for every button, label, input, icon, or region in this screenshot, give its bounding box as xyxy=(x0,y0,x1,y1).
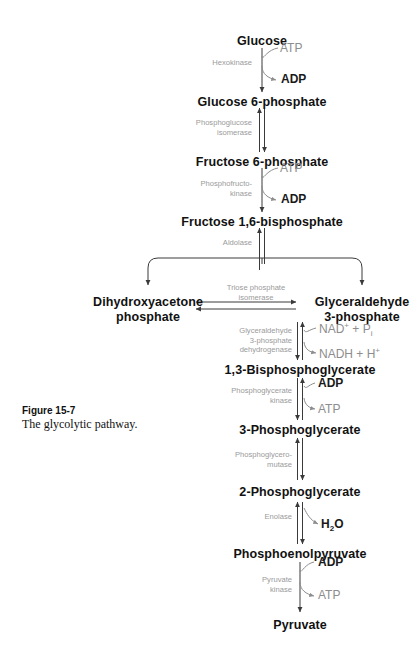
enzyme-phosphoglucose-isomerase-line2: isomerase xyxy=(217,128,252,137)
enzyme-pyruvate-kinase-line1: Pyruvate xyxy=(262,575,292,584)
cofactor-pi-subscript: i xyxy=(371,329,373,338)
figure-caption: Figure 15-7 The glycolytic pathway. xyxy=(22,404,138,432)
enzyme-triose-phosphate-isomerase-line1: Triose phosphate xyxy=(227,283,285,292)
cofactor-h2o-h: H xyxy=(321,517,330,531)
enzyme-phosphoglyceromutase-line2: mutase xyxy=(267,460,292,469)
enzyme-hexokinase: Hexokinase xyxy=(212,58,252,67)
metabolite-fructose-6-phosphate: Fructose 6-phosphate xyxy=(196,155,329,169)
cofactor-water-enolase: H2O xyxy=(321,517,343,533)
cofactor-atp-hexokinase: ATP xyxy=(280,41,302,55)
glycolysis-diagram: Glucose Glucose 6-phosphate Fructose 6-p… xyxy=(0,0,419,671)
enzyme-phosphoglycerate-kinase-line2: kinase xyxy=(270,396,292,405)
figure-number: Figure 15-7 xyxy=(22,404,138,417)
metabolite-2-phosphoglycerate: 2-Phosphoglycerate xyxy=(239,485,360,499)
cofactor-nad-label: NAD xyxy=(319,322,344,336)
metabolite-1-3-bisphosphoglycerate: 1,3-Bisphosphoglycerate xyxy=(225,363,376,377)
cofactor-atp-pgk: ATP xyxy=(318,402,340,416)
enzyme-aldolase: Aldolase xyxy=(223,238,252,247)
cofactor-adp-pgk: ADP xyxy=(318,376,343,390)
enzyme-phosphoglyceromutase-line1: Phosphoglycero- xyxy=(235,450,292,459)
enzyme-phosphoglycerate-kinase-line1: Phosphoglycerate xyxy=(231,386,292,395)
cofactor-adp-pfk: ADP xyxy=(281,192,306,206)
enzyme-gapdh-line1: Glyceraldehyde xyxy=(239,326,292,335)
figure-caption-text: The glycolytic pathway. xyxy=(22,417,138,432)
metabolite-phosphoenolpyruvate: Phosphoenolpyruvate xyxy=(233,547,366,561)
cofactor-h2o-o: O xyxy=(334,517,343,531)
metabolite-dhap-line2: phosphate xyxy=(116,310,180,324)
metabolite-pyruvate: Pyruvate xyxy=(273,618,327,632)
cofactor-plus-sign: + xyxy=(349,322,363,336)
enzyme-gapdh-line2: 3-phosphate xyxy=(250,336,292,345)
metabolite-dhap-line1: Dihydroxyacetone xyxy=(93,295,203,309)
cofactor-adp-hexokinase: ADP xyxy=(281,72,306,86)
cofactor-adp-pk: ADP xyxy=(318,555,343,569)
metabolite-g3p-line1: Glyceraldehyde xyxy=(315,295,410,309)
enzyme-phosphofructokinase-line2: kinase xyxy=(230,189,252,198)
cofactor-pi-label: P xyxy=(363,322,371,336)
enzyme-phosphoglucose-isomerase-line1: Phosphoglucose xyxy=(196,118,252,127)
cofactor-nadh-label: NADH + H xyxy=(319,347,375,361)
metabolite-fructose-1-6-bisphosphate: Fructose 1,6-bisphosphate xyxy=(181,215,343,229)
enzyme-phosphofructokinase-line1: Phosphofructo- xyxy=(201,179,253,188)
cofactor-atp-pfk: ATP xyxy=(280,161,302,175)
enzyme-triose-phosphate-isomerase-line2: isomerase xyxy=(238,293,273,302)
cofactor-nad-pi-gapdh: NAD+ + Pi xyxy=(319,321,373,338)
cofactor-atp-pk: ATP xyxy=(318,588,340,602)
enzyme-pyruvate-kinase-line2: kinase xyxy=(270,585,292,594)
enzyme-enolase: Enolase xyxy=(265,512,292,521)
metabolite-glucose-6-phosphate: Glucose 6-phosphate xyxy=(197,95,326,109)
metabolite-3-phosphoglycerate: 3-Phosphoglycerate xyxy=(239,423,360,437)
cofactor-h-charge: + xyxy=(375,346,380,355)
enzyme-gapdh-line3: dehydrogenase xyxy=(240,345,292,354)
cofactor-nadh-h-gapdh: NADH + H+ xyxy=(319,346,380,361)
